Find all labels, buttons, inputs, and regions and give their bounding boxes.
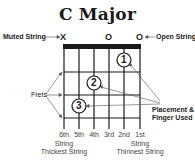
muted-string-label: Muted String bbox=[3, 33, 46, 41]
string-label-3rd: 3rd bbox=[103, 131, 115, 139]
finger-3-number: 3 bbox=[76, 101, 82, 111]
left-caption-line2: Thickest String bbox=[39, 148, 89, 156]
finger-1-number: 1 bbox=[121, 55, 127, 65]
string-label-1st: 1st bbox=[134, 131, 146, 139]
placement-label-line1: Placement & bbox=[152, 106, 194, 114]
muted-marker-6th: X bbox=[60, 33, 66, 41]
fretboard-graphic bbox=[0, 0, 195, 168]
string-label-4th: 4th bbox=[88, 131, 100, 139]
string-label-5th: 5th bbox=[73, 131, 85, 139]
right-caption-line1: String bbox=[120, 140, 160, 148]
string-label-6th: 6th bbox=[58, 131, 70, 139]
open-string-label: Open String bbox=[156, 33, 195, 41]
open-marker-1st: O bbox=[136, 33, 143, 41]
frets-label: Frets bbox=[31, 91, 47, 99]
nut bbox=[63, 44, 141, 49]
left-caption-line1: String bbox=[44, 140, 84, 148]
chord-diagram: C Major bbox=[0, 0, 195, 168]
finger-2-number: 2 bbox=[91, 78, 97, 88]
string-label-2nd: 2nd bbox=[118, 131, 130, 139]
open-marker-3rd: O bbox=[105, 33, 112, 41]
right-caption-line2: Thinnest String bbox=[115, 148, 165, 156]
placement-label-line2: Finger Used bbox=[152, 114, 192, 122]
